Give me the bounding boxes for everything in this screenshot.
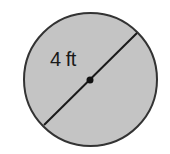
circle-diagram: 4 ft: [0, 0, 170, 154]
circle-figure: [0, 0, 170, 154]
diameter-label: 4 ft: [50, 49, 76, 69]
center-point: [87, 77, 94, 84]
